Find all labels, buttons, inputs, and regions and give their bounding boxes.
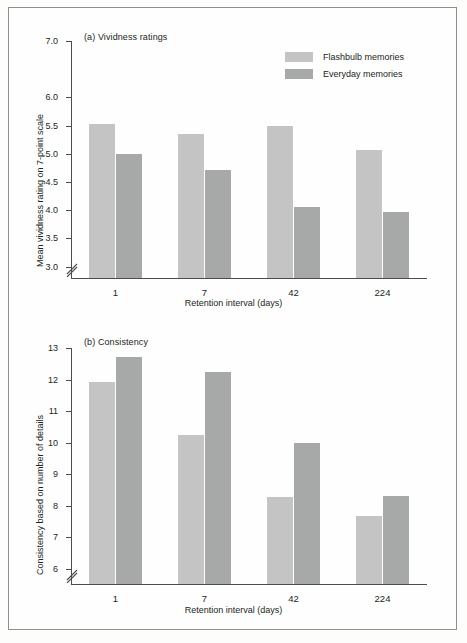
figure-border: (a) Vividness ratings Mean vividness rat… (8, 7, 457, 630)
bar-b-42-flashbulb (267, 497, 293, 584)
y-tick-label-a-3: 4.5 (45, 177, 58, 187)
bar-group-b-1: 1 (89, 347, 142, 584)
x-tick-label-a-42: 42 (288, 287, 299, 298)
y-tick-b-6: 12 (66, 380, 71, 381)
bar-a-42-everyday (294, 207, 320, 277)
bar-b-7-flashbulb (178, 435, 204, 584)
y-tick-a-6: 6.0 (66, 97, 71, 98)
bar-a-224-flashbulb (356, 150, 382, 277)
y-tick-label-b-6: 12 (48, 375, 58, 385)
x-tick-label-b-42: 42 (288, 593, 299, 604)
bar-b-1-flashbulb (89, 382, 115, 584)
y-tick-a-0: 3.0 (66, 267, 71, 268)
y-tick-label-a-0: 3.0 (45, 262, 58, 272)
y-tick-label-a-2: 4.0 (45, 205, 58, 215)
y-tick-label-a-4: 5.0 (45, 149, 58, 159)
y-tick-label-a-1: 3.5 (45, 233, 58, 243)
y-tick-label-b-5: 11 (49, 406, 58, 416)
bar-group-a-7: 7 (178, 40, 231, 278)
y-tick-label-b-1: 7 (53, 532, 58, 542)
panel-vividness-ratings: (a) Vividness ratings Mean vividness rat… (9, 14, 458, 319)
y-tick-a-4: 5.0 (66, 154, 71, 155)
y-tick-b-4: 10 (66, 443, 71, 444)
bar-group-b-7: 7 (178, 347, 231, 584)
panel-consistency: (b) Consistency Consistency based on num… (9, 323, 458, 625)
bar-b-7-everyday (205, 372, 231, 584)
panel-a-y-axis-title: Mean vividness rating on 7-point scale (35, 114, 45, 267)
y-tick-label-b-3: 9 (53, 469, 58, 479)
panel-b-title: (b) Consistency (84, 337, 148, 347)
panel-b-x-axis-title: Retention interval (days) (9, 605, 458, 615)
y-tick-label-b-2: 8 (53, 501, 58, 511)
y-tick-label-b-0: 6 (53, 564, 58, 574)
figure: (a) Vividness ratings Mean vividness rat… (0, 0, 467, 643)
x-tick-label-b-1: 1 (113, 593, 118, 604)
bar-b-42-everyday (294, 443, 320, 584)
panel-b-plot-area: 678910111213 1742224 (71, 348, 427, 585)
bar-a-42-flashbulb (267, 126, 293, 278)
y-tick-a-3: 4.5 (66, 182, 71, 183)
bar-b-224-flashbulb (356, 516, 382, 584)
legend-swatch-icon-everyday (285, 69, 313, 79)
y-tick-label-b-4: 10 (48, 438, 58, 448)
bar-group-b-42: 42 (267, 347, 320, 584)
y-tick-label-a-5: 5.5 (45, 121, 58, 131)
panel-a-y-axis (71, 41, 72, 279)
bar-a-1-flashbulb (89, 124, 115, 277)
panel-b-y-axis (71, 348, 72, 585)
panel-b-x-axis (71, 584, 427, 585)
bar-a-224-everyday (383, 212, 409, 278)
x-tick-label-b-7: 7 (202, 593, 207, 604)
legend-item-flashbulb: Flashbulb memories (285, 50, 404, 64)
legend-label-flashbulb: Flashbulb memories (323, 52, 404, 62)
y-tick-label-b-7: 13 (48, 343, 58, 353)
y-tick-a-7: 7.0 (66, 41, 71, 42)
y-tick-a-5: 5.5 (66, 126, 71, 127)
y-tick-b-0: 6 (66, 569, 71, 570)
y-tick-b-7: 13 (66, 348, 71, 349)
y-tick-label-a-7: 7.0 (45, 36, 58, 46)
y-tick-b-1: 7 (66, 537, 71, 538)
x-tick-label-a-1: 1 (113, 287, 118, 298)
bar-a-1-everyday (116, 154, 142, 277)
bar-group-a-1: 1 (89, 40, 142, 278)
bar-a-7-everyday (205, 170, 231, 278)
y-tick-b-3: 9 (66, 474, 71, 475)
y-tick-a-2: 4.0 (66, 210, 71, 211)
bar-a-7-flashbulb (178, 134, 204, 278)
y-tick-a-1: 3.5 (66, 238, 71, 239)
legend-swatch-icon-flashbulb (285, 52, 313, 62)
bar-b-1-everyday (116, 357, 142, 583)
x-tick-label-a-7: 7 (202, 287, 207, 298)
bar-group-b-224: 224 (356, 347, 409, 584)
legend: Flashbulb memories Everyday memories (285, 50, 404, 84)
y-tick-label-a-6: 6.0 (45, 92, 58, 102)
panel-b-y-axis-title: Consistency based on number of details (35, 415, 45, 575)
panel-a-x-axis (71, 278, 427, 279)
legend-label-everyday: Everyday memories (323, 69, 403, 79)
bar-b-224-everyday (383, 496, 409, 584)
x-tick-label-b-224: 224 (375, 593, 391, 604)
panel-a-x-axis-title: Retention interval (days) (9, 298, 458, 308)
x-tick-label-a-224: 224 (375, 287, 391, 298)
y-tick-b-2: 8 (66, 506, 71, 507)
y-tick-b-5: 11 (66, 411, 71, 412)
legend-item-everyday: Everyday memories (285, 67, 404, 81)
